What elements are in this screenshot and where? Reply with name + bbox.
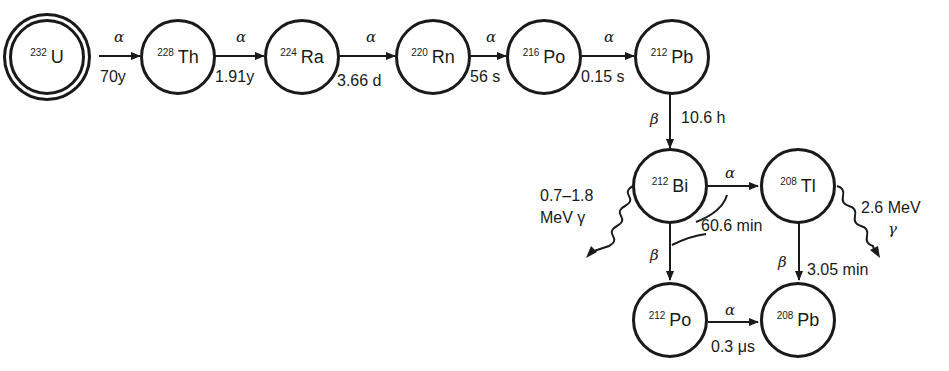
mass-number: 216 xyxy=(523,47,540,58)
node-tl208: 208Tl xyxy=(760,148,836,224)
gamma-energy-label: MeV γ xyxy=(540,210,585,226)
node-ra224: 224Ra xyxy=(264,19,340,95)
decay-mode-label: β xyxy=(650,112,659,127)
mass-number: 220 xyxy=(411,47,428,58)
gamma-energy-label: γ xyxy=(888,222,897,237)
decay-mode-label: α xyxy=(725,303,735,318)
half-life-label: 3.05 min xyxy=(807,262,868,278)
node-th228: 228Th xyxy=(140,19,216,95)
element-symbol: Tl xyxy=(801,176,816,197)
mass-number: 212 xyxy=(649,310,666,321)
mass-number: 208 xyxy=(777,310,794,321)
decay-mode-label: β xyxy=(778,255,787,270)
half-life-label: 0.3 μs xyxy=(711,339,755,355)
half-life-label: 60.6 min xyxy=(701,218,762,234)
half-life-label: 56 s xyxy=(470,69,500,85)
mass-number: 212 xyxy=(651,47,668,58)
decay-mode-label: β xyxy=(650,248,659,263)
mass-number: 224 xyxy=(280,47,297,58)
mass-number: 232 xyxy=(30,47,47,58)
decay-mode-label: α xyxy=(366,30,376,45)
element-symbol: Po xyxy=(669,310,691,331)
node-bi212: 212Bi xyxy=(632,148,708,224)
half-life-label: 10.6 h xyxy=(681,110,725,126)
decay-mode-label: α xyxy=(114,30,124,45)
gamma-energy-label: 0.7–1.8 xyxy=(540,188,593,204)
element-symbol: Po xyxy=(543,47,565,68)
mass-number: 212 xyxy=(652,176,669,187)
node-po212: 212Po xyxy=(632,282,708,358)
element-symbol: Rn xyxy=(432,47,455,68)
half-life-label: 0.15 s xyxy=(581,69,625,85)
node-rn220: 220Rn xyxy=(395,19,471,95)
node-pb212: 212Pb xyxy=(634,19,710,95)
node-pb208: 208Pb xyxy=(760,282,836,358)
decay-mode-label: α xyxy=(725,166,735,181)
element-symbol: Pb xyxy=(797,310,819,331)
mass-number: 228 xyxy=(157,47,174,58)
decay-mode-label: α xyxy=(604,30,614,45)
half-life-label: 1.91y xyxy=(215,69,254,85)
element-symbol: Bi xyxy=(672,176,688,197)
element-symbol: U xyxy=(51,47,64,68)
node-po216: 216Po xyxy=(506,19,582,95)
element-symbol: Ra xyxy=(301,47,324,68)
element-symbol: Th xyxy=(178,47,199,68)
decay-mode-label: α xyxy=(486,30,496,45)
half-life-label: 70y xyxy=(100,69,126,85)
half-life-label: 3.66 d xyxy=(337,73,381,89)
decay-mode-label: α xyxy=(236,30,246,45)
element-symbol: Pb xyxy=(671,47,693,68)
gamma-energy-label: 2.6 MeV xyxy=(861,200,921,216)
mass-number: 208 xyxy=(780,176,797,187)
node-u232: 232U xyxy=(9,19,85,95)
